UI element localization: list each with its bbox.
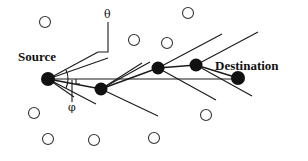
n2-sector-lower [158, 68, 216, 100]
idle-node [40, 17, 51, 28]
phi-symbol: φ [68, 102, 76, 113]
relay-node-1 [95, 83, 108, 96]
idle-node [43, 134, 54, 145]
idle-node [89, 135, 100, 146]
idle-node [183, 8, 194, 19]
diagram-canvas [0, 0, 308, 161]
relay-node-2 [152, 62, 165, 75]
destination-label: Destination [215, 59, 279, 72]
source-label: Source [18, 50, 56, 63]
routing-diagram: Source Destination θ φ [0, 0, 308, 161]
sector-upper-line-2 [48, 58, 108, 79]
destination-node [231, 71, 245, 85]
phi-arc [66, 79, 68, 88]
source-node [41, 72, 55, 86]
idle-node [201, 110, 212, 121]
idle-node [162, 38, 173, 49]
n1-sector-lower [101, 89, 158, 116]
n1-sector-upper-2 [101, 62, 150, 89]
relay-node-3 [190, 59, 203, 72]
idle-node [129, 35, 140, 46]
idle-node [149, 133, 160, 144]
idle-node [29, 108, 40, 119]
theta-arc [66, 70, 68, 79]
theta-symbol: θ [104, 9, 111, 20]
theta-leader [98, 22, 108, 52]
